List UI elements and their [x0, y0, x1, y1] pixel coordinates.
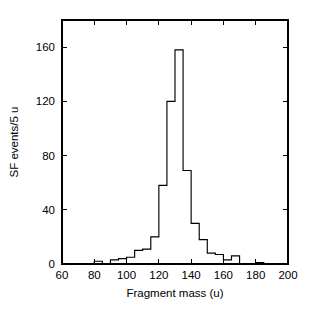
x-tick-label-180: 180: [246, 269, 265, 281]
y-tick-label-80: 80: [42, 150, 55, 162]
x-tick-label-160: 160: [214, 269, 233, 281]
y-tick-label-40: 40: [42, 204, 55, 216]
y-tick-label-160: 160: [36, 41, 55, 53]
y-tick-label-120: 120: [36, 95, 55, 107]
x-axis-title: Fragment mass (u): [126, 287, 223, 299]
x-tick-label-140: 140: [182, 269, 201, 281]
x-tick-label-200: 200: [278, 269, 297, 281]
x-tick-label-60: 60: [56, 269, 69, 281]
y-tick-label-0: 0: [49, 258, 55, 270]
histogram-step-outline: [62, 50, 288, 264]
x-tick-label-120: 120: [149, 269, 168, 281]
figure-container: 608010012014016018020004080120160Fragmen…: [0, 0, 324, 316]
y-axis-title: SF events/5 u: [8, 107, 20, 178]
histogram-chart: 608010012014016018020004080120160Fragmen…: [0, 0, 324, 316]
x-tick-label-80: 80: [88, 269, 101, 281]
x-tick-label-100: 100: [117, 269, 136, 281]
